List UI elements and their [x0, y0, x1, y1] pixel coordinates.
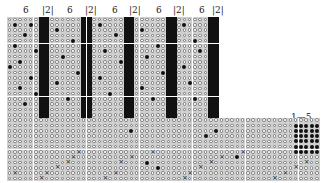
label-open-1: 6: [23, 5, 29, 15]
label-solid-5: |2|: [212, 5, 224, 15]
chart-cell: [314, 176, 319, 181]
label-solid-1: |2|: [42, 5, 54, 15]
label-open-4: 6: [156, 5, 162, 15]
label-solid-2: |2|: [85, 5, 97, 15]
label-open-5: 6: [199, 5, 205, 15]
label-open-2: 6: [67, 5, 73, 15]
label-open-3: 6: [112, 5, 118, 15]
label-solid-4: |2|: [173, 5, 185, 15]
label-solid-3: |2|: [129, 5, 141, 15]
